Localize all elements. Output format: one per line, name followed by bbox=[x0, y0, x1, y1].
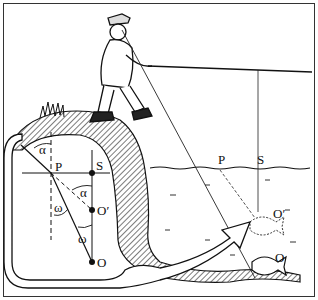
inset-alpha-mid-label: α bbox=[80, 186, 87, 199]
apparent-ray bbox=[220, 170, 255, 218]
inset-point-o-prime-label: O′ bbox=[97, 204, 109, 217]
inset-point-s-label: S bbox=[96, 159, 103, 172]
scene-point-s-label: S bbox=[257, 153, 264, 166]
inset-omega-bottom-label: ω bbox=[78, 232, 87, 245]
scene-point-p-label: P bbox=[218, 153, 225, 166]
inset-alpha-top-label: α bbox=[39, 143, 46, 156]
water-surface bbox=[150, 167, 310, 169]
inset-omega-left-label: ω bbox=[54, 201, 63, 214]
fishing-rod bbox=[148, 66, 312, 72]
inset-point-p-label: P bbox=[55, 160, 62, 173]
scene-point-o-label: O bbox=[275, 251, 284, 264]
scene-point-o-prime-label: O′ bbox=[273, 207, 285, 220]
inset-point-o-label: O bbox=[97, 256, 106, 269]
river-bank bbox=[8, 111, 300, 282]
refraction-illustration bbox=[0, 0, 318, 300]
